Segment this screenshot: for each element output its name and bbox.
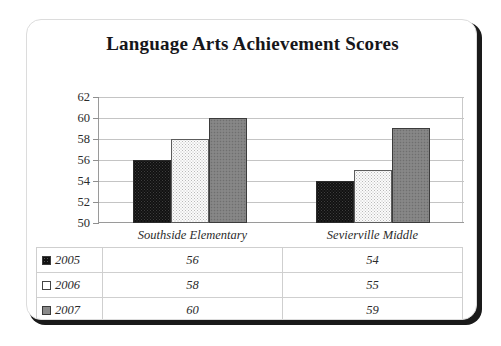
data-table: Southside ElementarySevierville Middle20… xyxy=(36,223,463,320)
y-axis-label-52: 52 xyxy=(78,195,91,210)
table-cell-2006-col1: 58 xyxy=(103,273,283,298)
gridline-62 xyxy=(99,97,464,98)
chart-title: Language Arts Achievement Scores xyxy=(27,33,477,55)
y-axis-label-54: 54 xyxy=(78,174,91,189)
bar-2006-southside-elementary xyxy=(171,139,209,223)
legend-swatch-icon-2006 xyxy=(42,281,51,290)
tick-mark-52 xyxy=(93,202,99,203)
tick-mark-56 xyxy=(93,160,99,161)
table-cell-2007-col2: 59 xyxy=(283,298,463,321)
tick-mark-54 xyxy=(93,181,99,182)
bar-2006-sevierville-middle xyxy=(354,170,392,223)
y-axis-label-60: 60 xyxy=(78,111,91,126)
y-axis-label-56: 56 xyxy=(78,153,91,168)
tick-mark-58 xyxy=(93,139,99,140)
table-cell-2007-col1: 60 xyxy=(103,298,283,321)
tick-mark-62 xyxy=(93,97,99,98)
table-header-row: Southside ElementarySevierville Middle xyxy=(37,223,463,248)
plot-area: 62605856545250 xyxy=(98,97,463,223)
bar-2007-sevierville-middle xyxy=(392,128,430,223)
table-row: 20076059 xyxy=(37,298,463,321)
gridline-60 xyxy=(99,118,464,119)
y-axis-label-62: 62 xyxy=(78,90,91,105)
legend-swatch-icon-2005 xyxy=(42,256,51,265)
table-row: 20065855 xyxy=(37,273,463,298)
table-cell-2005-col2: 54 xyxy=(283,248,463,273)
chart-card: Language Arts Achievement Scores 6260585… xyxy=(26,19,477,320)
table-corner-cell xyxy=(37,223,103,248)
tick-mark-60 xyxy=(93,118,99,119)
legend-label-2006: 2006 xyxy=(55,278,80,292)
table-cell-2006-col2: 55 xyxy=(283,273,463,298)
legend-item-2006[interactable]: 2006 xyxy=(37,273,103,298)
table-cell-2005-col1: 56 xyxy=(103,248,283,273)
chart-card-container: Language Arts Achievement Scores 6260585… xyxy=(0,0,501,346)
legend-label-2005: 2005 xyxy=(55,253,80,267)
table-column-header-2: Sevierville Middle xyxy=(283,223,463,248)
bar-2007-southside-elementary xyxy=(209,118,247,223)
legend-swatch-icon-2007 xyxy=(42,306,51,315)
legend-item-2005[interactable]: 2005 xyxy=(37,248,103,273)
bar-2005-southside-elementary xyxy=(133,160,171,223)
bar-2005-sevierville-middle xyxy=(316,181,354,223)
legend-item-2007[interactable]: 2007 xyxy=(37,298,103,321)
legend-label-2007: 2007 xyxy=(55,303,80,317)
y-axis-label-58: 58 xyxy=(78,132,91,147)
table-column-header-1: Southside Elementary xyxy=(103,223,283,248)
table-row: 20055654 xyxy=(37,248,463,273)
